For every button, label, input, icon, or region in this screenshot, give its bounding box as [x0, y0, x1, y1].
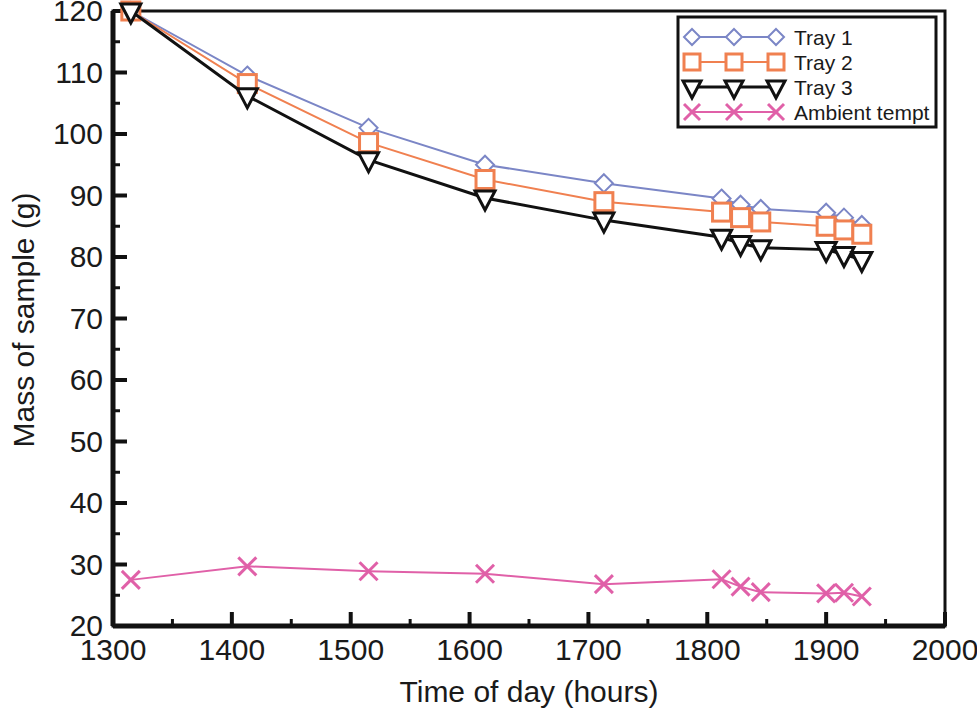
y-tick-label: 120: [53, 0, 103, 27]
legend-label: Tray 3: [794, 76, 853, 99]
x-axis-title: Time of day (hours): [400, 675, 659, 708]
y-axis-title: Mass of sample (g): [7, 192, 40, 447]
y-tick-label: 30: [70, 548, 103, 581]
y-tick-label: 90: [70, 179, 103, 212]
data-point-marker: [684, 54, 700, 70]
y-tick-label: 110: [55, 56, 103, 89]
y-tick-label: 100: [53, 117, 103, 150]
x-axis: 13001400150016001700180019002000: [80, 612, 977, 666]
y-tick-label: 70: [70, 302, 103, 335]
y-tick-label: 80: [70, 240, 103, 273]
data-point-marker: [768, 54, 784, 70]
y-axis: 2030405060708090100110120: [53, 0, 127, 642]
data-point-marker: [752, 213, 770, 231]
x-tick-label: 1600: [436, 633, 503, 666]
data-point-marker: [817, 217, 835, 235]
data-point-marker: [853, 225, 871, 243]
y-tick-label: 50: [70, 425, 103, 458]
y-tick-label: 20: [70, 609, 103, 642]
data-point-marker: [713, 203, 731, 221]
x-tick-label: 1500: [317, 633, 384, 666]
data-point-marker: [476, 171, 494, 189]
x-tick-label: 1800: [674, 633, 741, 666]
data-point-marker: [726, 54, 742, 70]
data-point-marker: [835, 221, 853, 239]
data-point-marker: [595, 193, 613, 211]
x-tick-label: 1700: [555, 633, 622, 666]
series-line: [131, 566, 862, 596]
data-point-marker: [852, 252, 872, 271]
x-tick-label: 1400: [198, 633, 265, 666]
y-tick-label: 40: [70, 486, 103, 519]
line-chart: 13001400150016001700180019002000 2030405…: [0, 0, 977, 714]
data-point-marker: [595, 174, 613, 192]
legend-label: Tray 1: [794, 26, 853, 49]
x-tick-label: 1900: [793, 633, 860, 666]
data-point-marker: [853, 587, 871, 605]
data-point-marker: [732, 578, 750, 596]
chart-legend: Tray 1Tray 2Tray 3Ambient tempt: [678, 17, 936, 127]
data-point-marker: [751, 241, 771, 260]
data-point-marker: [732, 209, 750, 227]
y-tick-label: 60: [70, 363, 103, 396]
data-point-marker: [360, 134, 378, 152]
series-4: [122, 557, 871, 605]
legend-label: Tray 2: [794, 51, 853, 74]
legend-label: Ambient tempt: [794, 101, 930, 124]
x-tick-label: 2000: [912, 633, 977, 666]
chart-container: 13001400150016001700180019002000 2030405…: [0, 0, 977, 714]
